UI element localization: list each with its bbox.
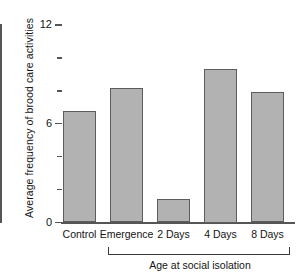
bar: [110, 88, 143, 223]
y-tick-minor: [57, 90, 62, 91]
y-tick-label: 12: [26, 18, 52, 30]
x-axis-group-title: Age at social isolation: [60, 259, 303, 271]
y-axis-line: [0, 24, 2, 223]
bar: [157, 199, 190, 222]
bar: [63, 111, 96, 223]
y-tick-minor: [57, 156, 62, 157]
y-tick-label: 0: [26, 216, 52, 228]
bar: [251, 92, 284, 222]
y-tick-major: [55, 222, 62, 223]
y-tick-major: [55, 24, 62, 25]
y-tick-label: 6: [26, 117, 52, 129]
bar: [204, 69, 237, 222]
y-tick-minor: [57, 189, 62, 190]
y-tick-major: [55, 123, 62, 124]
bar-chart-figure: Average frequency of brood care activiti…: [0, 0, 303, 280]
y-tick-minor: [57, 57, 62, 58]
x-tick-label: 8 Days: [228, 228, 304, 240]
group-bracket: [108, 247, 290, 255]
